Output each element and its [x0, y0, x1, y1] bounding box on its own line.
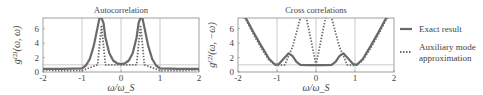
x-tick-label: 2 — [392, 73, 397, 83]
x-tick-label: 2 — [197, 73, 202, 83]
y-tick-label: 6 — [230, 24, 235, 34]
x-tick-label: 1 — [353, 73, 358, 83]
right-panel-title: Cross correlations — [285, 5, 347, 15]
x-tick-label: -1 — [273, 73, 281, 83]
right-x-axis-label: ω/ω_S — [303, 82, 330, 93]
right-y-axis-label: g⁽²⁾(ω, −ω) — [206, 22, 218, 68]
legend — [400, 29, 412, 52]
y-tick-label: 4 — [230, 38, 235, 48]
x-tick-label: -2 — [39, 73, 47, 83]
legend-exact-label: Exact result — [419, 24, 462, 34]
y-tick-label: 2 — [230, 53, 235, 63]
left-panel-title: Autocorrelation — [94, 5, 149, 15]
figure: Autocorrelation 0246 -2-1012 g⁽²⁾(ω, ω) … — [0, 0, 483, 95]
y-tick-label: 6 — [35, 24, 40, 34]
autocorrelation-panel: Autocorrelation 0246 -2-1012 g⁽²⁾(ω, ω) … — [11, 5, 201, 93]
left-y-axis-label: g⁽²⁾(ω, ω) — [11, 25, 23, 64]
left-x-axis-label: ω/ω_S — [108, 82, 135, 93]
right-y-ticks: 0246 — [230, 24, 241, 77]
y-tick-label: 4 — [35, 38, 40, 48]
legend-aux-label-line2: approximation — [419, 53, 472, 63]
cross-correlation-panel: Cross correlations 0246 -2-1012 g⁽²⁾(ω, … — [206, 5, 396, 93]
y-tick-label: 2 — [35, 53, 40, 63]
legend-aux-label-line1: Auxiliary mode — [419, 42, 476, 52]
x-tick-label: -1 — [78, 73, 86, 83]
x-tick-label: 1 — [158, 73, 163, 83]
x-tick-label: -2 — [234, 73, 242, 83]
